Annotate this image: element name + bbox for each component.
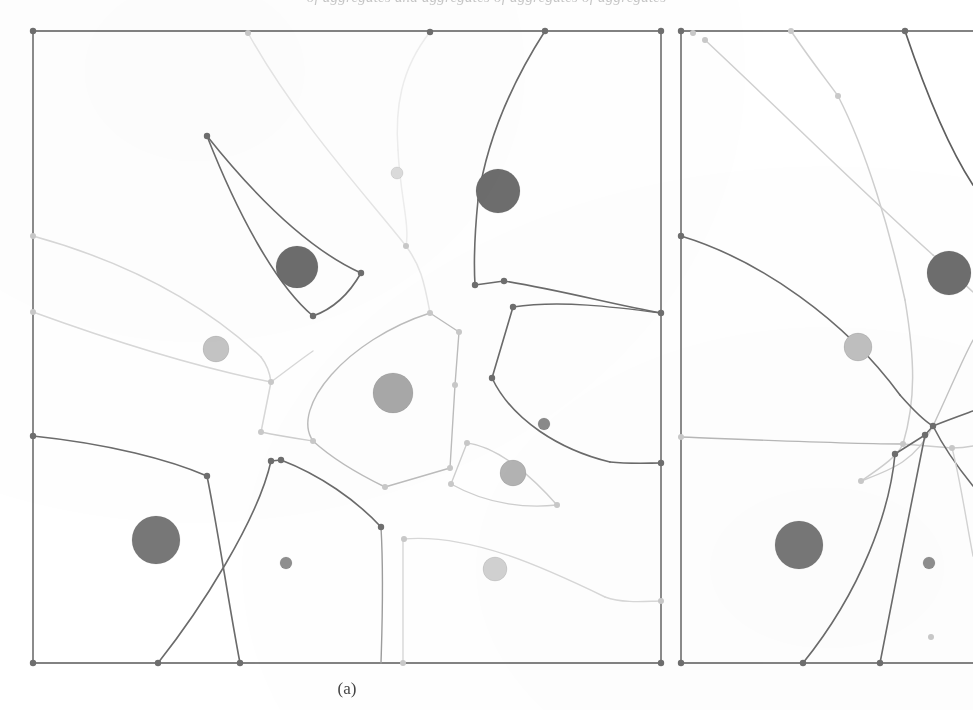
cell-vertex-a-30 xyxy=(448,481,454,487)
disk-site-a4 xyxy=(373,373,413,413)
cell-edge-a-6 xyxy=(397,32,430,150)
cell-edge-b-5 xyxy=(791,31,838,96)
disk-site-a9 xyxy=(280,557,292,569)
cell-vertex-a-2 xyxy=(427,29,433,35)
disk-site-a6 xyxy=(500,460,526,486)
cell-edge-a-16 xyxy=(261,357,271,382)
cell-edge-a-33 xyxy=(158,461,271,663)
cell-vertex-b-14 xyxy=(928,634,934,640)
cell-vertex-a-14 xyxy=(258,429,264,435)
cell-vertex-a-25 xyxy=(204,473,210,479)
cell-edge-b-15 xyxy=(861,444,903,481)
cell-vertex-a-39 xyxy=(658,660,664,666)
cell-vertex-a-34 xyxy=(658,598,664,604)
voronoi-panel-a xyxy=(0,0,670,710)
cell-vertex-a-36 xyxy=(155,660,161,666)
cell-edge-a-18 xyxy=(261,382,271,432)
cell-vertex-a-17 xyxy=(452,382,458,388)
cell-edge-a-37 xyxy=(451,443,467,484)
cell-vertex-a-22 xyxy=(489,375,495,381)
cell-edge-b-22 xyxy=(952,448,973,556)
cell-edge-a-20 xyxy=(430,313,459,332)
disk-sites-a xyxy=(132,167,550,581)
cell-vertex-a-31 xyxy=(554,502,560,508)
cell-edge-a-4 xyxy=(248,33,406,246)
cell-vertex-a-7 xyxy=(310,313,316,319)
cell-vertex-a-28 xyxy=(378,524,384,530)
cell-vertices-b xyxy=(678,28,955,666)
cell-vertex-a-1 xyxy=(245,30,251,36)
cell-vertex-b-15 xyxy=(678,660,684,666)
cell-edge-a-22 xyxy=(450,385,455,468)
cell-vertex-a-33 xyxy=(658,460,664,466)
cell-edge-a-10 xyxy=(313,273,361,316)
cell-vertex-a-15 xyxy=(427,310,433,316)
cell-vertex-b-7 xyxy=(678,434,684,440)
cell-edge-b-12 xyxy=(681,437,903,444)
cell-vertex-b-13 xyxy=(858,478,864,484)
cell-vertex-a-37 xyxy=(237,660,243,666)
cell-edge-a-31 xyxy=(33,436,207,476)
cell-vertex-a-18 xyxy=(447,465,453,471)
cell-vertex-a-10 xyxy=(501,278,507,284)
cell-vertex-b-17 xyxy=(877,660,883,666)
cell-edge-a-34 xyxy=(281,460,381,527)
cell-vertex-b-3 xyxy=(788,28,794,34)
figure-caption-a: (a) xyxy=(0,679,694,699)
disk-site-b4 xyxy=(923,557,935,569)
cell-vertex-a-11 xyxy=(30,233,36,239)
cell-edge-a-13 xyxy=(475,281,504,285)
cell-edge-a-23 xyxy=(385,468,450,487)
cell-vertex-a-12 xyxy=(30,309,36,315)
cell-vertex-a-4 xyxy=(658,28,664,34)
disk-site-a2 xyxy=(476,169,520,213)
cell-boundary-edges-a xyxy=(33,31,661,663)
cell-edge-b-20 xyxy=(880,435,925,663)
cell-vertex-a-5 xyxy=(204,133,210,139)
disk-site-a1 xyxy=(276,246,318,288)
cell-vertex-a-27 xyxy=(278,457,284,463)
cell-edge-a-12 xyxy=(474,200,478,285)
voronoi-panel-b xyxy=(670,0,973,710)
cell-vertex-a-13 xyxy=(268,379,274,385)
cell-vertex-a-35 xyxy=(30,660,36,666)
cell-edge-a-29 xyxy=(492,378,610,462)
cell-edge-a-21 xyxy=(455,332,459,385)
cell-vertex-a-23 xyxy=(658,310,664,316)
disk-site-b1 xyxy=(927,251,971,295)
cell-vertex-a-19 xyxy=(382,484,388,490)
cell-vertex-a-24 xyxy=(30,433,36,439)
cell-vertex-a-16 xyxy=(456,329,462,335)
cell-edge-a-30 xyxy=(610,462,661,463)
cell-vertex-b-0 xyxy=(678,28,684,34)
cell-vertex-a-8 xyxy=(403,243,409,249)
cell-edge-b-21 xyxy=(933,426,973,486)
disk-site-a5 xyxy=(203,336,229,362)
cell-edge-a-5 xyxy=(406,246,430,313)
cell-vertex-b-12 xyxy=(949,445,955,451)
disk-sites-b xyxy=(775,251,971,569)
cell-vertex-a-3 xyxy=(542,28,548,34)
cell-edge-b-8 xyxy=(905,31,973,185)
cell-vertex-a-26 xyxy=(268,458,274,464)
cell-edge-b-10 xyxy=(900,395,933,426)
cell-edge-a-35 xyxy=(381,527,383,663)
disk-site-b3 xyxy=(844,333,872,361)
cell-vertex-b-10 xyxy=(892,451,898,457)
cell-edge-a-17 xyxy=(33,312,271,382)
cell-vertex-a-6 xyxy=(358,270,364,276)
cell-vertex-b-8 xyxy=(930,423,936,429)
cell-edge-a-26 xyxy=(271,351,313,382)
cell-edge-a-19 xyxy=(261,432,313,441)
cell-vertex-a-38 xyxy=(400,660,406,666)
cell-edge-b-3 xyxy=(705,40,933,255)
figure-container: (a) xyxy=(0,0,973,710)
cell-vertex-a-21 xyxy=(510,304,516,310)
disk-site-a8 xyxy=(538,418,550,430)
cell-vertex-a-32 xyxy=(401,536,407,542)
cell-vertex-a-29 xyxy=(464,440,470,446)
cell-edge-a-15 xyxy=(33,236,261,357)
cell-vertex-b-6 xyxy=(678,233,684,239)
cell-vertex-a-9 xyxy=(472,282,478,288)
cell-vertex-a-0 xyxy=(30,28,36,34)
